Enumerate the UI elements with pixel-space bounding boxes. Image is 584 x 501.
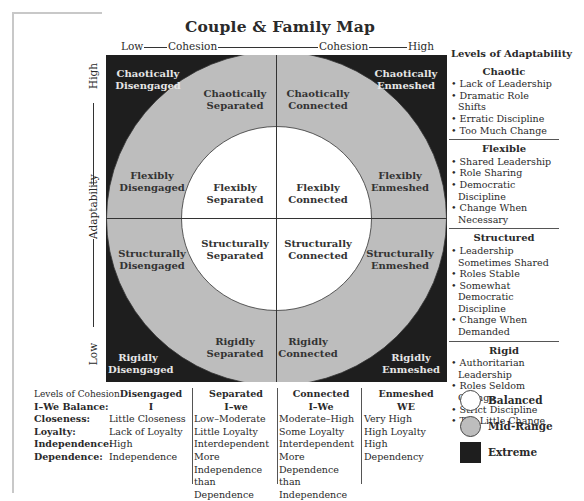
cell-structurally-separated: Structurally Separated: [195, 238, 275, 262]
row-label: I–We Balance:: [34, 401, 120, 414]
cell-loyalty: High Loyalty: [364, 426, 448, 439]
list-item: Shared Leadership: [449, 156, 559, 168]
cell-chaotically-disengaged: Chaotically Disengaged: [108, 68, 188, 92]
column-divider: [192, 388, 193, 484]
list-item: Roles Stable: [449, 268, 559, 280]
cohesion-column-separated: Separated I–we Low–Moderate Little Loyal…: [194, 388, 278, 501]
cell-balance: I: [109, 401, 193, 414]
group-title: Rigid: [449, 345, 559, 357]
extreme-swatch-icon: [460, 442, 481, 463]
cell-closeness: Very High: [364, 413, 448, 426]
list-item: Democratic Discipline: [449, 179, 559, 202]
row-label: Levels of Cohesion: [34, 388, 120, 401]
cell-chaotically-connected: Chaotically Connected: [278, 88, 358, 112]
list-item: Dramatic Role Shifts: [449, 90, 559, 113]
column-divider: [361, 388, 362, 484]
group-title: Chaotic: [449, 66, 559, 78]
cohesion-column-connected: Connected I–We Moderate–High Some Loyalt…: [279, 388, 363, 501]
cell-chaotically-enmeshed: Chaotically Enmeshed: [366, 68, 446, 92]
cell-closeness: Little Closeness: [109, 413, 193, 426]
cell-rigidly-separated: Rigidly Separated: [195, 336, 275, 360]
adaptability-group-structured: Structured Leadership Sometimes Shared R…: [449, 232, 559, 341]
cell-structurally-connected: Structurally Connected: [278, 238, 358, 262]
adaptability-heading: Levels of Adaptability: [451, 48, 579, 60]
cohesion-column-enmeshed: Enmeshed WE Very High High Loyalty High …: [364, 388, 448, 464]
cell-structurally-enmeshed: Structurally Enmeshed: [360, 248, 440, 272]
list-item: Somewhat Democratic Discipline: [449, 280, 559, 315]
cell-loyalty: Little Loyalty: [194, 426, 278, 439]
list-item: Erratic Discipline: [449, 113, 559, 125]
cell-closeness: Low–Moderate: [194, 413, 278, 426]
cell-loyalty: Some Loyalty: [279, 426, 363, 439]
cell-rigidly-connected: Rigidly Connected: [278, 336, 338, 360]
cell-structurally-disengaged: Structurally Disengaged: [112, 248, 192, 272]
cell-loyalty: Lack of Loyalty: [109, 426, 193, 439]
cohesion-row-labels: Levels of Cohesion I–We Balance: Closene…: [34, 388, 120, 464]
list-item: Change When Necessary: [449, 202, 559, 225]
cell-dependence: More Dependence than Independence: [279, 451, 363, 501]
cell-dependence: More Independence than Dependence: [194, 451, 278, 501]
cell-chaotically-separated: Chaotically Separated: [195, 88, 275, 112]
list-item: Lack of Leadership: [449, 78, 559, 90]
list-item: Leadership Sometimes Shared: [449, 245, 559, 268]
cell-balance: I–we: [194, 401, 278, 414]
cell-independence: High Independence: [109, 438, 193, 463]
row-label: Closeness:: [34, 413, 120, 426]
list-item: Change When Demanded: [449, 314, 559, 337]
cell-flexibly-connected: Flexibly Connected: [278, 182, 358, 206]
adaptability-group-flexible: Flexible Shared Leadership Role Sharing …: [449, 143, 559, 229]
column-header: Connected: [279, 388, 363, 401]
mid-range-swatch-icon: [460, 416, 481, 437]
legend-label: Extreme: [488, 446, 537, 458]
column-header: Disengaged: [109, 388, 193, 401]
adaptability-levels-panel: Levels of Adaptability Chaotic Lack of L…: [449, 48, 579, 433]
cell-flexibly-separated: Flexibly Separated: [195, 182, 275, 206]
row-label: Independence:: [34, 438, 120, 451]
cell-balance: I–We: [279, 401, 363, 414]
column-header: Enmeshed: [364, 388, 448, 401]
cell-independence: Interdependent: [279, 438, 363, 451]
cell-balance: WE: [364, 401, 448, 414]
cell-closeness: Moderate–High: [279, 413, 363, 426]
cell-independence: Interdependent: [194, 438, 278, 451]
cell-rigidly-enmeshed: Rigidly Enmeshed: [376, 352, 446, 376]
adaptability-group-chaotic: Chaotic Lack of Leadership Dramatic Role…: [449, 66, 559, 141]
row-label: Dependence:: [34, 451, 120, 464]
group-title: Structured: [449, 232, 559, 244]
legend-label: Balanced: [488, 394, 543, 406]
row-label: Loyalty:: [34, 426, 120, 439]
group-title: Flexible: [449, 143, 559, 155]
balanced-swatch-icon: [460, 390, 481, 411]
cell-flexibly-disengaged: Flexibly Disengaged: [112, 170, 192, 194]
list-item: Role Sharing: [449, 167, 559, 179]
cell-rigidly-disengaged: Rigidly Disengaged: [108, 352, 168, 376]
cell-flexibly-enmeshed: Flexibly Enmeshed: [360, 170, 440, 194]
cohesion-column-disengaged: Disengaged I Little Closeness Lack of Lo…: [109, 388, 193, 464]
cell-independence: High Dependency: [364, 438, 448, 463]
column-header: Separated: [194, 388, 278, 401]
list-item: Too Much Change: [449, 125, 559, 137]
legend-label: Mid-Range: [488, 420, 553, 432]
column-divider: [277, 388, 278, 484]
list-item: Authoritarian Leadership: [449, 357, 559, 380]
